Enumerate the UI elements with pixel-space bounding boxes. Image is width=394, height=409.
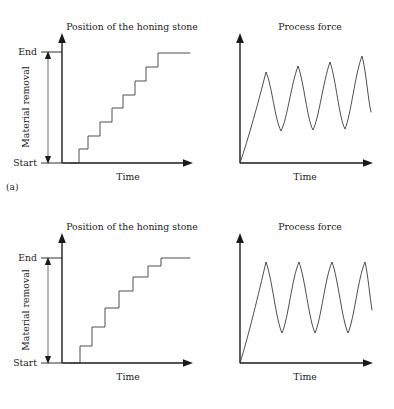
panel-a-label: (a) (6, 182, 18, 192)
force-chart-b-svg: Process force Time (215, 200, 394, 400)
position-chart-a-staircase (70, 53, 190, 163)
position-chart-b-axes (58, 233, 193, 367)
position-chart-b-xlabel: Time (116, 371, 140, 382)
position-chart-a-title: Position of the honing stone (66, 21, 198, 32)
material-removal-dimension-a (45, 51, 51, 164)
position-chart-a: Position of the honing stone End Start (0, 0, 215, 200)
position-chart-a-svg: Position of the honing stone End Start (0, 0, 215, 200)
force-chart-a-title: Process force (278, 21, 342, 32)
y-axis-arrowhead-icon (236, 233, 244, 243)
force-chart-b: Process force Time (215, 200, 394, 400)
force-chart-b-xlabel: Time (293, 371, 317, 382)
position-chart-a-end-label: End (18, 46, 37, 57)
figure-panel-b: Position of the honing stone End Start M… (0, 200, 394, 400)
x-axis-arrowhead-icon (363, 159, 373, 167)
position-chart-a-xlabel: Time (116, 171, 140, 182)
position-chart-b: Position of the honing stone End Start M… (0, 200, 215, 400)
position-chart-b-staircase (70, 258, 190, 363)
position-chart-b-title: Position of the honing stone (66, 221, 198, 232)
position-chart-b-ticks (41, 258, 62, 363)
force-chart-b-wave (240, 262, 372, 363)
position-chart-a-ticks (41, 52, 62, 163)
force-chart-a-svg: Process force Time (215, 0, 394, 200)
x-axis-arrowhead-icon (183, 159, 193, 167)
position-chart-b-end-label: End (18, 252, 37, 263)
y-axis-arrowhead-icon (236, 33, 244, 43)
force-chart-b-title: Process force (278, 221, 342, 232)
force-chart-a: Process force Time (215, 0, 394, 200)
figure-panel-a: Position of the honing stone End Start (0, 0, 394, 200)
force-chart-a-wave (240, 56, 371, 163)
x-axis-arrowhead-icon (363, 359, 373, 367)
force-chart-a-xlabel: Time (293, 171, 317, 182)
position-chart-b-ylabel: Material removal (20, 269, 31, 350)
y-axis-arrowhead-icon (58, 233, 66, 243)
position-chart-b-start-label: Start (13, 357, 37, 368)
position-chart-a-start-label: Start (13, 157, 37, 168)
position-chart-b-svg: Position of the honing stone End Start M… (0, 200, 215, 400)
position-chart-a-ylabel: Material removal (20, 66, 31, 147)
y-axis-arrowhead-icon (58, 33, 66, 43)
x-axis-arrowhead-icon (183, 359, 193, 367)
material-removal-dimension-b (45, 257, 51, 364)
